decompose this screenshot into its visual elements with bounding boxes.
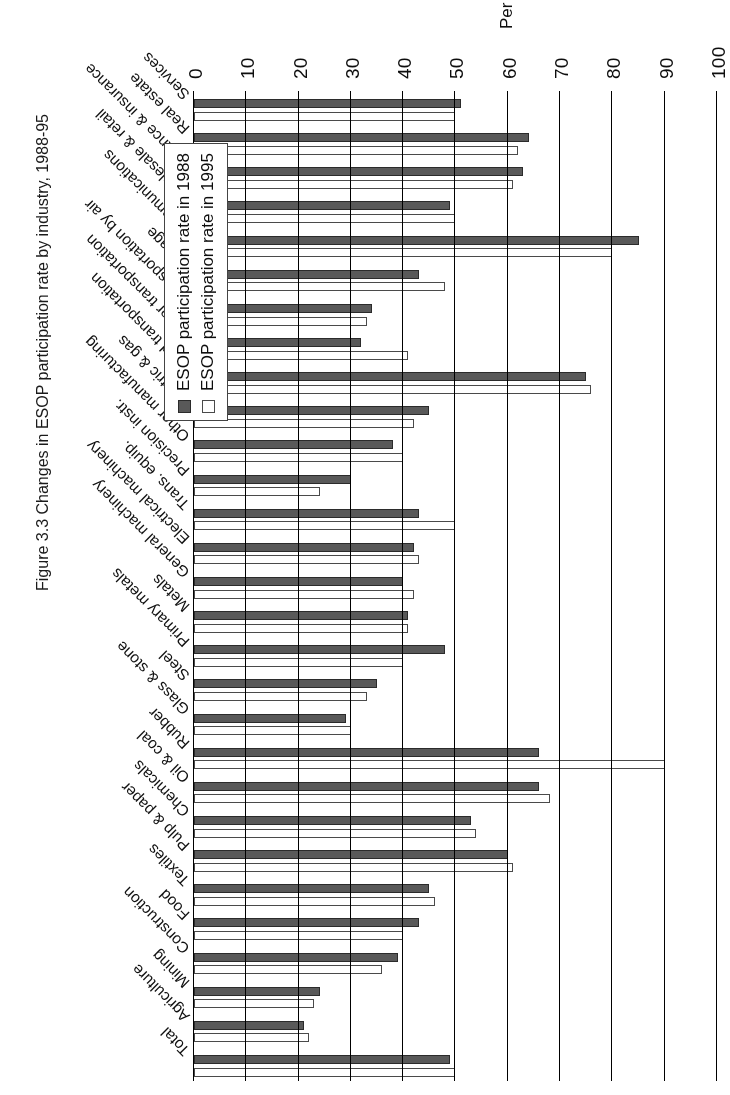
bar-1988 <box>194 167 523 176</box>
bar-row <box>194 1013 717 1047</box>
bar-1995 <box>194 282 445 291</box>
chart-legend: ESOP participation rate in 1988 ESOP par… <box>164 143 228 421</box>
bar-1988 <box>194 509 419 518</box>
bar-1988 <box>194 645 445 654</box>
bar-row <box>194 1047 717 1081</box>
bar-1988 <box>194 475 351 484</box>
gridline-50 <box>455 91 456 1081</box>
bar-1995 <box>194 897 435 906</box>
bar-1988 <box>194 884 429 893</box>
bar-1995 <box>194 624 408 633</box>
bar-row <box>194 603 717 637</box>
bar-row <box>194 125 717 159</box>
bar-row <box>194 159 717 193</box>
bar-1988 <box>194 440 393 449</box>
bar-1995 <box>194 965 382 974</box>
bar-row <box>194 364 717 398</box>
bar-row <box>194 842 717 876</box>
bar-1988 <box>194 918 419 927</box>
legend-swatch-1988 <box>178 400 191 413</box>
bar-row <box>194 432 717 466</box>
bar-row <box>194 637 717 671</box>
bar-1988 <box>194 202 450 211</box>
bar-1995 <box>194 112 456 121</box>
bar-1995 <box>194 726 351 735</box>
bar-row <box>194 740 717 774</box>
tick-label-10: 10 <box>237 57 259 79</box>
legend-item-1995: ESOP participation rate in 1995 <box>196 153 220 413</box>
bar-1995 <box>194 180 513 189</box>
bar-1995 <box>194 146 518 155</box>
bar-1988 <box>194 1021 304 1030</box>
bar-1995 <box>194 487 320 496</box>
plot-area <box>194 91 717 1081</box>
bar-row <box>194 979 717 1013</box>
bar-1995 <box>194 863 513 872</box>
tick-label-50: 50 <box>447 57 469 79</box>
bar-row <box>194 910 717 944</box>
legend-item-1988: ESOP participation rate in 1988 <box>172 153 196 413</box>
bar-1988 <box>194 236 639 245</box>
gridline-40 <box>402 91 403 1081</box>
bar-row <box>194 535 717 569</box>
bar-row <box>194 671 717 705</box>
bar-1988 <box>194 714 346 723</box>
bar-1988 <box>194 1055 450 1064</box>
tick-label-60: 60 <box>499 57 521 79</box>
chart-sheet: 0102030405060708090100 TotalAgricultureM… <box>0 0 730 1095</box>
bar-1988 <box>194 543 414 552</box>
bar-row <box>194 501 717 535</box>
tick-label-90: 90 <box>656 57 678 79</box>
gridline-10 <box>245 91 246 1081</box>
bar-1995 <box>194 385 591 394</box>
gridline-90 <box>664 91 665 1081</box>
bar-row <box>194 569 717 603</box>
bar-1995 <box>194 794 550 803</box>
gridline-20 <box>298 91 299 1081</box>
tick-label-0: 0 <box>185 68 207 79</box>
bar-row <box>194 330 717 364</box>
bar-row <box>194 944 717 978</box>
bar-row <box>194 398 717 432</box>
bar-row <box>194 262 717 296</box>
bar-row <box>194 193 717 227</box>
tick-label-40: 40 <box>394 57 416 79</box>
bar-row <box>194 808 717 842</box>
bar-1995 <box>194 999 314 1008</box>
bar-row <box>194 467 717 501</box>
bar-1988 <box>194 372 586 381</box>
legend-label-1988: ESOP participation rate in 1988 <box>174 153 194 391</box>
tick-label-70: 70 <box>551 57 573 79</box>
value-axis-title: Per cent <box>497 0 517 29</box>
bar-row <box>194 706 717 740</box>
bar-1988 <box>194 133 529 142</box>
gridline-60 <box>507 91 508 1081</box>
bar-1995 <box>194 521 456 530</box>
tick-label-30: 30 <box>342 57 364 79</box>
bar-1995 <box>194 1068 456 1077</box>
bar-row <box>194 228 717 262</box>
bar-1988 <box>194 99 461 108</box>
gridline-30 <box>350 91 351 1081</box>
bar-1988 <box>194 953 398 962</box>
bar-1988 <box>194 987 320 996</box>
bar-1988 <box>194 611 408 620</box>
gridline-80 <box>611 91 612 1081</box>
legend-swatch-1995 <box>202 400 215 413</box>
bar-row <box>194 876 717 910</box>
bar-row <box>194 774 717 808</box>
rotated-page: 0102030405060708090100 TotalAgricultureM… <box>0 0 730 1095</box>
gridline-100 <box>716 91 717 1081</box>
bar-1995 <box>194 692 367 701</box>
tick-label-100: 100 <box>708 46 730 79</box>
bar-1988 <box>194 406 429 415</box>
bar-row <box>194 91 717 125</box>
legend-label-1995: ESOP participation rate in 1995 <box>198 153 218 391</box>
bar-1988 <box>194 816 471 825</box>
tick-label-80: 80 <box>603 57 625 79</box>
bar-1995 <box>194 556 419 565</box>
gridline-70 <box>559 91 560 1081</box>
bar-1995 <box>194 214 456 223</box>
tick-label-20: 20 <box>290 57 312 79</box>
bar-1995 <box>194 590 414 599</box>
